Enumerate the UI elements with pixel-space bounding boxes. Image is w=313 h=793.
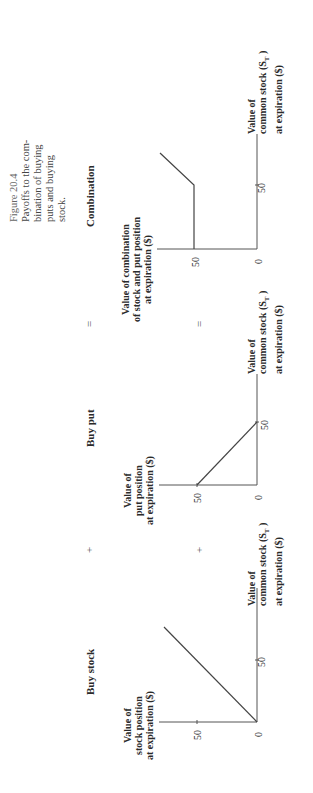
buy-stock-payoff-line (164, 627, 257, 722)
buy-stock-y-tick-50: 50 (192, 730, 203, 740)
combination-payoff-line (160, 153, 194, 249)
buy-put-payoff-line (197, 422, 257, 485)
buy-put-y-tick-50: 50 (192, 493, 203, 503)
payoff-plots (0, 0, 313, 793)
buy-stock-x-tick-50: 50 (256, 657, 267, 667)
combination-origin: 0 (253, 259, 264, 264)
buy-put-x-tick-50: 50 (259, 420, 270, 430)
buy-put-origin: 0 (253, 495, 264, 500)
combination-x-tick-50: 50 (256, 183, 267, 193)
combination-y-tick-50: 50 (190, 257, 201, 267)
buy-stock-origin: 0 (253, 732, 264, 737)
